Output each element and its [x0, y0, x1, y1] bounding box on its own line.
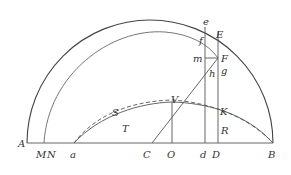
solid-curve-aVKB: [74, 102, 273, 143]
label-T: T: [122, 123, 130, 134]
label-F: F: [220, 53, 229, 64]
label-a: a: [70, 149, 76, 160]
label-E: E: [215, 29, 224, 40]
label-e: e: [203, 16, 209, 27]
label-V: V: [171, 94, 180, 105]
inner-arc-MF: [44, 32, 218, 143]
label-M: M: [35, 149, 47, 160]
dashed-curve-aSVRB: [74, 100, 273, 143]
label-C: C: [143, 149, 151, 160]
label-d: d: [200, 149, 206, 160]
label-B: B: [267, 149, 275, 160]
label-N: N: [46, 149, 57, 160]
label-g: g: [221, 65, 227, 76]
label-h: h: [209, 68, 215, 79]
label-R: R: [220, 125, 229, 136]
outer-semicircle: [27, 20, 273, 143]
label-m: m: [193, 53, 202, 64]
label-O: O: [167, 149, 175, 160]
label-K: K: [219, 106, 228, 117]
geometry-diagram: A M N a C O d D B S T V K R e E f m F g …: [0, 0, 291, 175]
label-S: S: [112, 107, 119, 118]
label-D: D: [211, 149, 220, 160]
label-A: A: [17, 138, 25, 149]
